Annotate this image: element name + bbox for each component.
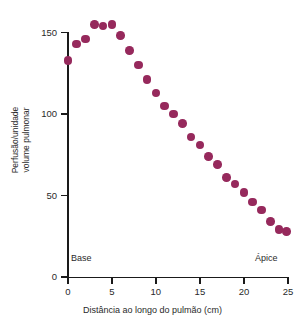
- x-tick-label-15: 15: [185, 287, 215, 297]
- x-tick-10: [155, 277, 157, 284]
- data-point: [160, 102, 169, 111]
- data-point: [222, 173, 231, 182]
- data-point: [90, 20, 99, 29]
- annotation-base: Base: [71, 253, 92, 263]
- x-tick-label-5: 5: [97, 287, 127, 297]
- x-tick-25: [287, 277, 289, 284]
- data-point: [196, 141, 205, 150]
- data-point: [116, 31, 125, 40]
- data-point: [257, 206, 266, 215]
- data-point: [231, 180, 240, 189]
- data-point: [125, 46, 134, 55]
- x-axis-title: Distância ao longo do pulmão (cm): [0, 305, 305, 315]
- data-point: [64, 56, 73, 65]
- data-point: [213, 160, 222, 169]
- x-tick-label-0: 0: [53, 287, 83, 297]
- data-point: [169, 110, 178, 119]
- data-point: [240, 188, 249, 197]
- x-tick-5: [111, 277, 113, 284]
- data-point: [72, 40, 81, 49]
- data-point: [108, 20, 117, 29]
- annotation-apice: Ápice: [255, 253, 278, 263]
- y-tick-150: [61, 32, 68, 34]
- y-tick-label-100: 100: [17, 109, 57, 119]
- data-point: [81, 35, 90, 44]
- x-tick-0: [67, 277, 69, 284]
- data-point: [99, 22, 108, 31]
- x-axis-line: [67, 277, 289, 279]
- data-point: [204, 152, 213, 161]
- data-point: [282, 227, 291, 236]
- y-axis-line: [67, 32, 69, 278]
- x-tick-20: [243, 277, 245, 284]
- y-tick-100: [61, 113, 68, 115]
- y-tick-label-150: 150: [17, 28, 57, 38]
- plot-area: 050100150 0510152025 Base Ápice: [0, 0, 305, 330]
- y-tick-label-50: 50: [17, 191, 57, 201]
- data-point: [178, 119, 187, 128]
- x-tick-label-25: 25: [273, 287, 303, 297]
- perfusion-chart-figure: Perfusão/unidade volume pulmonar 0501001…: [0, 0, 305, 330]
- x-tick-label-20: 20: [229, 287, 259, 297]
- data-point: [152, 89, 161, 98]
- data-point: [187, 133, 196, 142]
- data-point: [143, 75, 152, 84]
- data-point: [266, 217, 275, 226]
- y-tick-label-0: 0: [17, 272, 57, 282]
- y-tick-50: [61, 195, 68, 197]
- x-tick-label-10: 10: [141, 287, 171, 297]
- data-point: [248, 198, 257, 207]
- x-tick-15: [199, 277, 201, 284]
- data-point: [134, 61, 143, 70]
